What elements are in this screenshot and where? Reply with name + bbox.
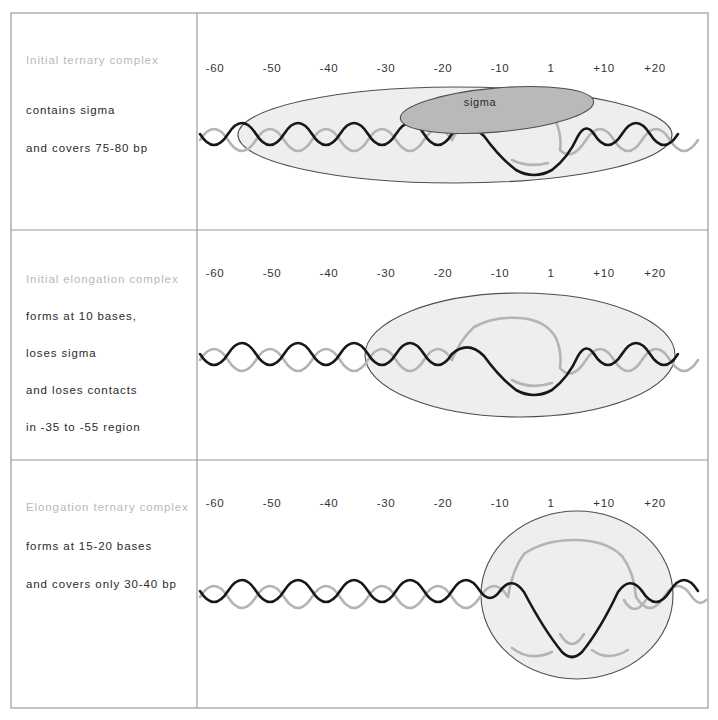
scale-tick--20: -20 [434, 267, 452, 279]
panel-elongation-ternary-complex: Elongation ternary complex forms at 15-2… [26, 497, 706, 679]
scale-tick--60: -60 [206, 497, 224, 509]
sigma-label: sigma [464, 96, 497, 108]
panel-2-line-3: and loses contacts [26, 384, 137, 396]
scale-tick--50: -50 [263, 267, 281, 279]
scale-tick--10: -10 [491, 267, 509, 279]
scale-tick--20: -20 [434, 497, 452, 509]
panel-1-scale: -60 -50 -40 -30 -20 -10 1 +10 +20 [206, 62, 666, 74]
scale-tick--50: -50 [263, 497, 281, 509]
scale-tick--60: -60 [206, 62, 224, 74]
scale-tick--40: -40 [320, 267, 338, 279]
panel-1-line-1: contains sigma [26, 104, 115, 116]
panel-3-heading: Elongation ternary complex [26, 501, 189, 513]
scale-tick-+10: +10 [593, 267, 614, 279]
scale-tick--40: -40 [320, 497, 338, 509]
scale-tick-1: 1 [548, 497, 555, 509]
scale-tick-1: 1 [548, 62, 555, 74]
panel-3-scale: -60 -50 -40 -30 -20 -10 1 +10 +20 [206, 497, 666, 509]
scale-tick--30: -30 [377, 62, 395, 74]
panel-2-scale: -60 -50 -40 -30 -20 -10 1 +10 +20 [206, 267, 666, 279]
panel-2-line-2: loses sigma [26, 347, 97, 359]
panel-1-heading: Initial ternary complex [26, 54, 159, 66]
scale-tick--30: -30 [377, 497, 395, 509]
transcription-complex-figure: Initial ternary complex contains sigma a… [0, 0, 718, 720]
scale-tick--30: -30 [377, 267, 395, 279]
scale-tick--50: -50 [263, 62, 281, 74]
scale-tick--20: -20 [434, 62, 452, 74]
panel-initial-elongation-complex: Initial elongation complex forms at 10 b… [26, 267, 698, 433]
scale-tick-+20: +20 [644, 267, 665, 279]
scale-tick-+20: +20 [644, 497, 665, 509]
scale-tick--40: -40 [320, 62, 338, 74]
scale-tick--60: -60 [206, 267, 224, 279]
panel-2-heading: Initial elongation complex [26, 273, 179, 285]
panel-3-line-2: and covers only 30-40 bp [26, 578, 177, 590]
scale-tick-+10: +10 [593, 62, 614, 74]
scale-tick-+20: +20 [644, 62, 665, 74]
scale-tick-+10: +10 [593, 497, 614, 509]
scale-tick--10: -10 [491, 497, 509, 509]
panel-3-line-1: forms at 15-20 bases [26, 540, 152, 552]
panel-2-footprint-ellipse [365, 293, 675, 417]
panel-2-line-1: forms at 10 bases, [26, 310, 137, 322]
panel-1-line-2: and covers 75-80 bp [26, 142, 148, 154]
scale-tick-1: 1 [548, 267, 555, 279]
panel-initial-ternary-complex: Initial ternary complex contains sigma a… [26, 54, 698, 183]
panel-2-line-4: in -35 to -55 region [26, 421, 141, 433]
scale-tick--10: -10 [491, 62, 509, 74]
